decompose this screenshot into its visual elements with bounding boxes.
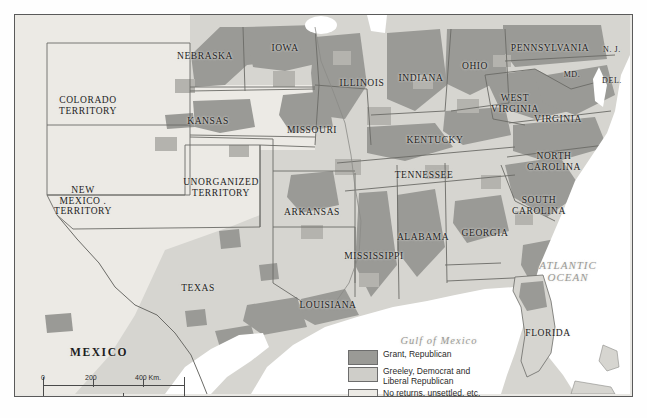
legend-swatch-greeley — [348, 367, 378, 382]
legend-item-grant: Grant, Republican — [348, 349, 480, 365]
map-frame: NEBRASKAIOWAILLINOISINDIANAOHIOPENNSYLVA… — [14, 14, 633, 397]
scale-km-400: 400 Km. — [135, 374, 161, 381]
legend-label-no-returns: No returns, unsettled, etc. — [383, 388, 480, 397]
legend-item-greeley: Greeley, Democrat and Liberal Republican — [348, 366, 480, 387]
legend-swatch-no-returns — [348, 389, 378, 397]
legend-label-greeley: Greeley, Democrat and Liberal Republican — [383, 366, 470, 387]
map-page: NEBRASKAIOWAILLINOISINDIANAOHIOPENNSYLVA… — [0, 0, 647, 418]
scale-tick-mi-200 — [123, 393, 124, 397]
scale-km-200: 200 — [85, 374, 97, 381]
legend-label-grant: Grant, Republican — [383, 349, 452, 359]
legend-item-no-returns: No returns, unsettled, etc. — [348, 388, 480, 397]
map-graphic — [15, 15, 630, 394]
scale-tick-end — [184, 377, 185, 397]
legend-swatch-grant — [348, 350, 378, 365]
map-legend: Grant, Republican Greeley, Democrat and … — [348, 349, 480, 397]
scale-km-0: 0 — [41, 374, 45, 381]
scale-line-km — [43, 385, 185, 386]
lake-erie — [305, 16, 337, 34]
